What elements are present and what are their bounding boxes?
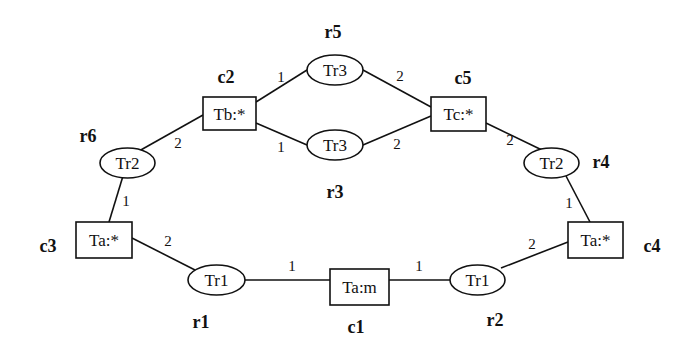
- port-label: 2: [528, 236, 536, 252]
- port-label: 1: [277, 69, 285, 85]
- node-r1: Tr1 r1: [188, 265, 245, 332]
- node-r4: Tr2 r4: [524, 148, 610, 178]
- edge-r6-c3: [109, 176, 123, 222]
- node-r5-id: r5: [325, 22, 342, 42]
- node-r6: Tr2 r6: [80, 126, 156, 178]
- node-c5-id: c5: [455, 68, 472, 88]
- node-c2: Tb:* c2: [203, 67, 256, 130]
- port-label: 2: [506, 132, 514, 148]
- port-label: 2: [164, 233, 172, 249]
- node-r4-label: Tr2: [540, 154, 564, 173]
- node-c2-id: c2: [218, 67, 235, 87]
- port-labels: 1 1 2 1 2 1 1 2 2 2 1 2: [122, 68, 573, 274]
- port-label: 1: [565, 195, 573, 211]
- node-r3: Tr3 r3: [307, 130, 363, 202]
- node-c1-label: Ta:m: [342, 278, 377, 297]
- node-r2: Tr1 r2: [450, 265, 505, 330]
- port-label: 1: [277, 139, 285, 155]
- node-c5-label: Tc:*: [444, 105, 474, 124]
- port-label: 2: [174, 135, 182, 151]
- port-label: 1: [288, 258, 296, 274]
- diagram-canvas: 1 1 2 1 2 1 1 2 2 2 1 2 Ta:m c1 Tb:* c2 …: [0, 0, 691, 347]
- node-c3-id: c3: [40, 236, 57, 256]
- node-c2-label: Tb:*: [213, 105, 245, 124]
- node-r1-label: Tr1: [205, 271, 229, 290]
- edge-c5-r4: [486, 123, 544, 151]
- node-r6-label: Tr2: [116, 154, 140, 173]
- node-c4-id: c4: [644, 236, 661, 256]
- node-r6-id: r6: [80, 126, 97, 146]
- node-r1-id: r1: [193, 312, 210, 332]
- node-c4-label: Ta:*: [581, 231, 611, 250]
- node-r5: Tr3 r5: [307, 22, 363, 85]
- node-r3-id: r3: [327, 182, 344, 202]
- node-c3: Ta:* c3: [40, 222, 133, 258]
- edge-r6-c2: [139, 115, 203, 151]
- node-r2-label: Tr1: [466, 271, 490, 290]
- port-label: 1: [415, 258, 423, 274]
- port-label: 2: [396, 68, 404, 84]
- node-c3-label: Ta:*: [89, 231, 119, 250]
- edges: [109, 70, 590, 280]
- node-r4-id: r4: [593, 152, 610, 172]
- node-c4: Ta:* c4: [568, 222, 661, 258]
- node-c1-id: c1: [348, 317, 365, 337]
- node-r5-label: Tr3: [323, 61, 347, 80]
- port-label: 1: [122, 193, 130, 209]
- node-c5: Tc:* c5: [431, 68, 486, 131]
- node-r3-label: Tr3: [323, 136, 347, 155]
- port-label: 2: [393, 136, 401, 152]
- node-c1: Ta:m c1: [330, 269, 389, 337]
- node-r2-id: r2: [487, 310, 504, 330]
